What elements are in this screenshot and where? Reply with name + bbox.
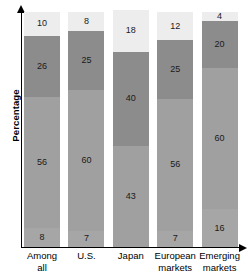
- bar-segment: 7: [68, 231, 104, 247]
- bar-segment: 8: [24, 228, 60, 247]
- bar-segment-value: 8: [39, 233, 44, 242]
- bar-segment: 26: [24, 36, 60, 97]
- bar-segment: 60: [68, 90, 104, 231]
- bar-segment-value: 43: [126, 192, 136, 201]
- x-tick-label-line: Emerging: [189, 250, 251, 262]
- plot-area: 102656882560718404312255674206016: [22, 12, 240, 247]
- bar-segment: 8: [68, 12, 104, 31]
- bar-segment-value: 26: [37, 62, 47, 71]
- bar-segment-value: 56: [37, 158, 47, 167]
- bar-segment-value: 40: [126, 94, 136, 103]
- bar-segment-value: 7: [84, 234, 89, 243]
- stacked-bar-chart: Percentage 10265688256071840431225567420…: [0, 0, 252, 279]
- x-tick-label-line: all: [11, 262, 73, 274]
- bar-segment: 10: [24, 12, 60, 36]
- x-tick-label: Emergingmarkets: [189, 250, 251, 273]
- bar-u-s: 825607: [68, 12, 104, 247]
- bar-segment: 43: [113, 146, 149, 247]
- bar-among-all: 1026568: [24, 12, 60, 247]
- bar-segment: 25: [157, 40, 193, 99]
- bar-segment-value: 60: [81, 156, 91, 165]
- bar-segment-value: 18: [126, 26, 136, 35]
- x-axis-line: [21, 247, 240, 248]
- bar-emerging-markets: 4206016: [202, 12, 238, 247]
- bar-segment-value: 56: [170, 160, 180, 169]
- bar-segment: 25: [68, 31, 104, 90]
- bar-segment: 16: [202, 209, 238, 247]
- bar-segment-value: 20: [215, 40, 225, 49]
- bar-segment: 18: [113, 10, 149, 52]
- x-tick-label-line: markets: [189, 262, 251, 274]
- bar-segment-value: 25: [81, 56, 91, 65]
- bar-segment-value: 4: [217, 12, 222, 21]
- bar-segment: 56: [24, 97, 60, 229]
- bar-segment: 7: [157, 231, 193, 247]
- bar-segment: 20: [202, 21, 238, 68]
- bar-segment-value: 7: [173, 234, 178, 243]
- bar-segment-value: 60: [215, 134, 225, 143]
- bar-european-markets: 1225567: [157, 12, 193, 247]
- bar-segment: 40: [113, 52, 149, 146]
- bar-segment: 56: [157, 99, 193, 231]
- bar-segment: 60: [202, 68, 238, 209]
- bar-segment-value: 25: [170, 65, 180, 74]
- bar-segment-value: 12: [170, 22, 180, 31]
- bar-segment-value: 10: [37, 19, 47, 28]
- bar-segment: 4: [202, 12, 238, 21]
- bar-segment-value: 8: [84, 17, 89, 26]
- bar-segment-value: 16: [215, 224, 225, 233]
- y-axis-label: Percentage: [10, 71, 21, 161]
- bar-japan: 184043: [113, 10, 149, 247]
- bar-segment: 12: [157, 12, 193, 40]
